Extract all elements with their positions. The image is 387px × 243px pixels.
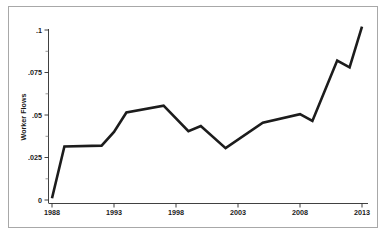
- line-chart: 0 .025 .05 .075 .1 Worker Flows 1988 199…: [0, 0, 387, 243]
- y-axis-tick-labels: 0 .025 .05 .075 .1: [28, 26, 42, 205]
- y-tick-label-075: .075: [28, 68, 42, 77]
- y-tick-label-025: .025: [28, 153, 42, 162]
- x-tick-label-2008: 2008: [292, 208, 308, 217]
- figure-container: 0 .025 .05 .075 .1 Worker Flows 1988 199…: [0, 0, 387, 243]
- y-tick-label-1: .1: [36, 26, 42, 35]
- worker-flows-line: [52, 27, 362, 199]
- x-tick-label-1993: 1993: [106, 208, 122, 217]
- y-tick-label-0: 0: [38, 196, 42, 205]
- y-axis-title: Worker Flows: [19, 94, 28, 141]
- y-axis-ticks: [45, 30, 49, 200]
- figure-caption: [10, 234, 380, 243]
- x-tick-label-2013: 2013: [354, 208, 370, 217]
- x-tick-label-1988: 1988: [44, 208, 60, 217]
- x-tick-label-2003: 2003: [230, 208, 246, 217]
- x-axis-ticks: [52, 204, 362, 208]
- x-axis-tick-labels: 1988 1993 1998 2003 2008 2013: [44, 208, 370, 217]
- y-tick-label-05: .05: [32, 111, 42, 120]
- x-tick-label-1998: 1998: [168, 208, 184, 217]
